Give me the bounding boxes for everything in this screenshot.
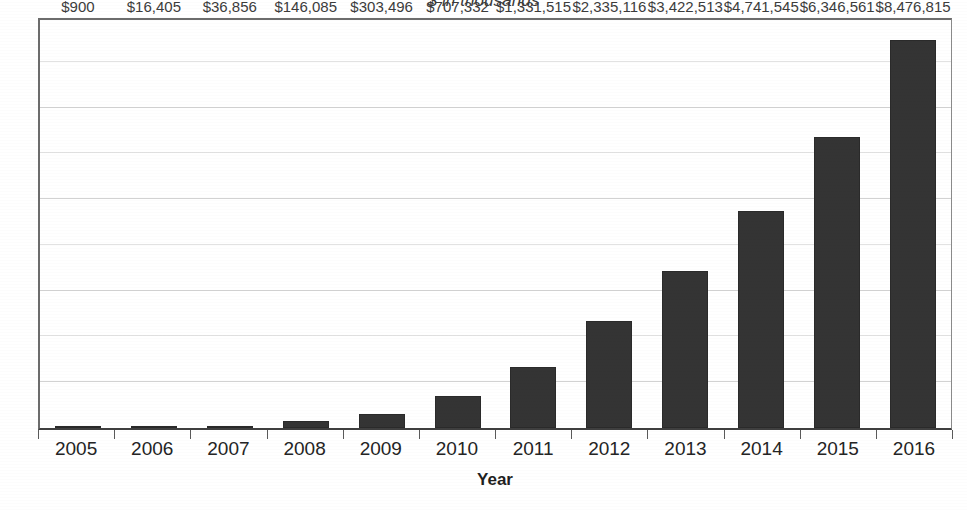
bar-slot: $900: [40, 20, 116, 428]
bar-slot: $36,856: [192, 20, 268, 428]
x-axis-title: Year: [38, 470, 952, 490]
x-tick-label: 2008: [267, 438, 343, 460]
bar-value-label: $36,856: [203, 0, 257, 15]
bar-value-label: $2,335,116: [572, 0, 646, 15]
x-tick-mark: [952, 430, 953, 439]
bar-series: $900$16,405$36,856$146,085$303,496$707,3…: [40, 20, 951, 428]
bar-slot: $146,085: [268, 20, 344, 428]
annual-sales-bar-chart: $ in thousands Annual sales $900$16,405$…: [0, 0, 967, 510]
x-tick-label: 2015: [800, 438, 876, 460]
x-tick-label: 2013: [647, 438, 723, 460]
x-axis-tick-labels: 2005200620072008200920102011201220132014…: [38, 438, 952, 460]
bar-slot: $3,422,513: [647, 20, 723, 428]
x-tick-label: 2007: [190, 438, 266, 460]
bar-slot: $1,331,515: [496, 20, 572, 428]
bar[interactable]: [510, 367, 556, 428]
x-tick-label: 2016: [876, 438, 952, 460]
bar-value-label: $8,476,815: [876, 0, 951, 15]
x-tick-label: 2006: [114, 438, 190, 460]
bar-value-label: $4,741,545: [724, 0, 799, 15]
x-tick-label: 2014: [724, 438, 800, 460]
bar[interactable]: [359, 414, 405, 428]
bar-value-label: $1,331,515: [496, 0, 571, 15]
bar-slot: $16,405: [116, 20, 192, 428]
bar-value-label: $707,332: [426, 0, 489, 15]
bar[interactable]: [890, 40, 936, 428]
x-tick-label: 2010: [419, 438, 495, 460]
bar-value-label: $6,346,561: [800, 0, 875, 15]
x-tick-label: 2005: [38, 438, 114, 460]
bar-slot: $8,476,815: [875, 20, 951, 428]
bar[interactable]: [131, 426, 177, 428]
bar[interactable]: [55, 426, 101, 428]
plot-area: $900$16,405$36,856$146,085$303,496$707,3…: [38, 18, 952, 430]
bar-slot: $4,741,545: [723, 20, 799, 428]
bar-slot: $2,335,116: [571, 20, 647, 428]
bar[interactable]: [435, 396, 481, 428]
bar[interactable]: [814, 137, 860, 428]
bar-slot: $303,496: [344, 20, 420, 428]
bar-value-label: $146,085: [274, 0, 337, 15]
bar-value-label: $16,405: [127, 0, 181, 15]
x-tick-label: 2011: [495, 438, 571, 460]
bar-value-label: $303,496: [350, 0, 413, 15]
x-tick-label: 2009: [343, 438, 419, 460]
bar[interactable]: [586, 321, 632, 428]
bar[interactable]: [662, 271, 708, 428]
bar[interactable]: [738, 211, 784, 428]
bar-value-label: $3,422,513: [648, 0, 723, 15]
bar-slot: $6,346,561: [799, 20, 875, 428]
x-tick-label: 2012: [571, 438, 647, 460]
bar-value-label: $900: [61, 0, 94, 15]
bar-slot: $707,332: [420, 20, 496, 428]
bar[interactable]: [283, 421, 329, 428]
bar[interactable]: [207, 426, 253, 428]
